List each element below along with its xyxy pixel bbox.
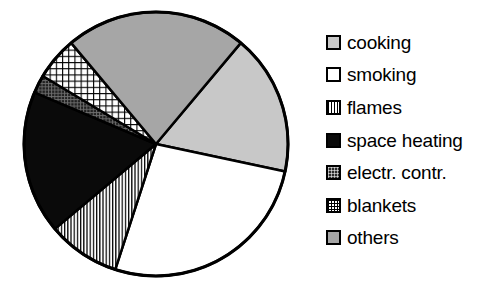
legend-item-label: cooking xyxy=(347,33,411,52)
legend-item-electr-contr[interactable]: electr. contr. xyxy=(326,156,502,189)
legend-item-smoking[interactable]: smoking xyxy=(326,59,502,92)
legend-item-cooking[interactable]: cooking xyxy=(326,26,502,59)
legend-swatch-icon xyxy=(326,198,341,213)
legend-item-label: blankets xyxy=(347,196,416,215)
legend-item-space-heating[interactable]: space heating xyxy=(326,124,502,157)
legend-item-label: others xyxy=(347,228,399,247)
legend-item-blankets[interactable]: blankets xyxy=(326,189,502,222)
legend-item-label: electr. contr. xyxy=(347,163,447,182)
legend-swatch-icon xyxy=(326,100,341,115)
legend-item-label: flames xyxy=(347,98,402,117)
legend-swatch-icon xyxy=(326,230,341,245)
pie-chart-svg xyxy=(0,0,312,290)
legend-swatch-icon xyxy=(326,133,341,148)
legend-item-label: space heating xyxy=(347,131,463,150)
legend-item-others[interactable]: others xyxy=(326,222,502,255)
pie-chart-figure: cookingsmokingflamesspace heatingelectr.… xyxy=(0,0,502,290)
legend-swatch-icon xyxy=(326,67,341,82)
legend-item-label: smoking xyxy=(347,65,416,84)
legend-swatch-icon xyxy=(326,35,341,50)
legend-item-flames[interactable]: flames xyxy=(326,91,502,124)
chart-legend: cookingsmokingflamesspace heatingelectr.… xyxy=(326,26,502,266)
pie-chart-plot-area xyxy=(0,0,312,290)
legend-swatch-icon xyxy=(326,165,341,180)
